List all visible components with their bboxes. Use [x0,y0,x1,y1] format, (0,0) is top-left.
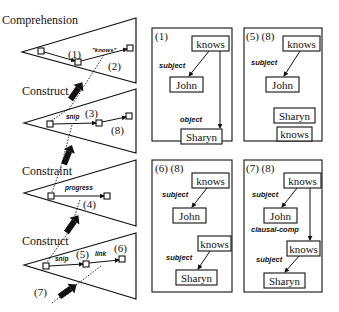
word-john: John [176,79,197,91]
word-sharyn: Sharyn [269,275,301,287]
state-node [83,261,89,267]
operator-label: progress [64,184,93,192]
step-number: (2) [108,60,121,73]
state-node [126,113,132,119]
stage-label: Construct [22,84,69,98]
step-number: (1) [68,48,81,61]
panel-label: (7) (8) [246,162,275,175]
word-knows: knows [287,38,316,50]
stage-label: Comprehension [2,13,78,27]
state-node [38,48,44,54]
operator-label: snip [55,255,68,263]
relation-label: subject [251,58,278,67]
word-knows: knows [196,175,225,187]
word-john: John [272,79,293,91]
relation-label: subject [166,253,193,262]
relation-label: subject [159,61,186,70]
state-node [43,263,49,269]
state-node [104,193,110,199]
hatched-arrow-icon [56,280,80,302]
panel-4: (7) (8) knows John knows Sharyn subject … [244,160,322,292]
step-number: (7) [34,286,47,299]
relation-label: object [180,115,203,124]
word-sharyn: Sharyn [279,110,311,122]
step-number: (6) [114,242,127,255]
diagram-canvas: Comprehension (1) "knows" (2) Construct … [0,0,339,312]
word-knows: knows [200,238,229,250]
word-sharyn: Sharyn [186,131,218,143]
panel-label: (5) (8) [246,30,275,43]
stage-label: Constraint [22,164,73,178]
hatched-arrow-icon [65,79,87,103]
relation-label: subject [162,190,189,199]
state-node [96,120,102,126]
operator-label: snip [66,113,79,121]
state-node [47,121,53,127]
stage-triangle [24,89,136,153]
panel-label: (1) [155,30,168,43]
word-sharyn: Sharyn [181,272,213,284]
word-john: John [179,210,200,222]
stage-construct-1: Construct snip (3) (8) [22,84,136,153]
word-knows: knows [289,243,318,255]
stage-constraint: Constraint progress (4) [22,160,136,226]
panel-2: (5) (8) knows John Sharyn knows subject [244,28,322,141]
state-node [127,45,133,51]
relation-label: subject [256,255,283,264]
panel-3: (6) (8) knows John knows Sharyn subject … [152,160,232,292]
operator-label: link [95,250,107,257]
panel-1: (1) knows John Sharyn subject object [152,28,232,144]
step-number: (4) [83,198,96,211]
word-knows: knows [288,175,317,187]
word-knows: knows [280,128,309,140]
stage-construct-2: Construct snip (5) link (6) (7) [22,233,136,299]
relation-label: subject [252,190,279,199]
relation-label: clausal-comp [251,225,299,234]
hatched-arrow-icon [61,212,83,236]
word-john: John [270,210,291,222]
step-number: (5) [76,248,89,261]
state-node [48,193,54,199]
step-number: (3) [85,107,98,120]
step-number: (8) [111,124,124,137]
input-word: "knows" [92,47,117,53]
stage-comprehension: Comprehension (1) "knows" (2) [2,13,136,83]
state-node [119,256,125,262]
word-knows: knows [196,38,225,50]
panel-label: (6) (8) [155,162,184,175]
